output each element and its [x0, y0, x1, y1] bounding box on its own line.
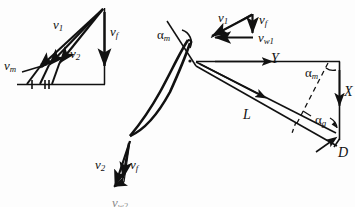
label-Y-axis: Y — [271, 52, 279, 66]
label-v1-cascade: v1 — [218, 11, 228, 26]
blade-pivot-node — [188, 59, 191, 62]
label-X-axis: X — [344, 85, 353, 99]
label-v2-inlet: v2 — [70, 47, 80, 62]
inlet-chord-3 — [52, 63, 60, 84]
label-vw2-outlet: vw2 — [112, 196, 128, 207]
L-lift-vector — [200, 64, 262, 96]
label-v1-inlet: v1 — [53, 18, 63, 33]
blade-velocity-force-diagram: v1 v2 vf vm v1 vf vw1 αm v2 vf vw2 Y X L… — [0, 0, 355, 207]
D-drag-vector — [316, 140, 333, 152]
alpha-g-dashed-reference — [291, 122, 296, 136]
outlet-triangle-group — [114, 141, 130, 187]
label-L-lift: L — [243, 108, 251, 122]
label-alpha-m-force: αm — [305, 66, 318, 81]
label-v2-outlet: v2 — [95, 158, 105, 173]
v2-vector-inlet — [60, 9, 104, 63]
label-vf-outlet: vf — [130, 158, 138, 173]
label-vf-inlet: vf — [110, 25, 118, 40]
alpha-g-chord-tick — [303, 111, 311, 116]
alpha-m-angle-arc-force — [326, 68, 336, 70]
v2-vector-outlet — [115, 141, 130, 186]
label-vf-cascade: vf — [259, 13, 267, 28]
label-vm-inlet: vm — [4, 59, 16, 74]
force-diagram-group — [196, 62, 340, 153]
label-D-drag: D — [338, 146, 348, 160]
blade-suction-surface — [130, 40, 188, 136]
label-alpha-g-force: αg — [315, 113, 326, 128]
label-alpha-m-blade: αm — [157, 28, 170, 43]
label-vw1-cascade: vw1 — [258, 31, 274, 46]
